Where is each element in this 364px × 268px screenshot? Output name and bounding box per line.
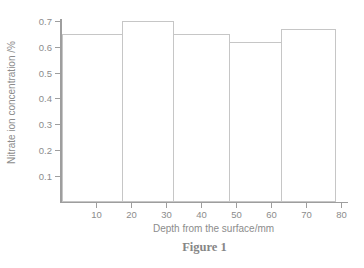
y-tick-label-0.6: 0.6 xyxy=(26,42,52,53)
y-tick-0.7 xyxy=(55,21,61,22)
figure-caption: Figure 1 xyxy=(144,240,265,255)
bar-17.5-32mm xyxy=(122,21,174,202)
y-tick-label-0.4: 0.4 xyxy=(26,93,52,104)
y-tick-0.2 xyxy=(55,150,61,151)
y-tick-label-0.1: 0.1 xyxy=(26,171,52,182)
x-tick-20 xyxy=(131,203,132,208)
x-tick-label-10: 10 xyxy=(85,209,109,220)
x-tick-label-80: 80 xyxy=(330,209,354,220)
y-tick-0.6 xyxy=(55,47,61,48)
figure-1-chart: 0.10.20.30.40.50.60.71020304050607080 Ni… xyxy=(0,0,364,268)
y-tick-label-0.2: 0.2 xyxy=(26,145,52,156)
bar-63-78.5mm xyxy=(281,29,336,202)
x-tick-80 xyxy=(341,203,342,208)
bar-32-48mm xyxy=(173,34,230,202)
x-axis-label: Depth from the surface/mm xyxy=(103,223,324,234)
x-tick-label-40: 40 xyxy=(190,209,214,220)
y-tick-label-0.7: 0.7 xyxy=(26,16,52,27)
x-tick-60 xyxy=(271,203,272,208)
x-tick-label-70: 70 xyxy=(295,209,319,220)
x-tick-label-60: 60 xyxy=(260,209,284,220)
y-tick-0.5 xyxy=(55,73,61,74)
y-tick-0.4 xyxy=(55,98,61,99)
x-axis-line xyxy=(60,202,348,204)
y-axis-label: Nitrate ion concentration /% xyxy=(6,12,17,194)
y-tick-0.3 xyxy=(55,124,61,125)
y-tick-label-0.3: 0.3 xyxy=(26,119,52,130)
bar-0-17.5mm xyxy=(62,34,123,202)
x-tick-30 xyxy=(166,203,167,208)
x-tick-10 xyxy=(96,203,97,208)
x-tick-label-20: 20 xyxy=(120,209,144,220)
y-tick-0.1 xyxy=(55,176,61,177)
x-tick-label-30: 30 xyxy=(155,209,179,220)
x-tick-40 xyxy=(201,203,202,208)
bar-48-63mm xyxy=(229,42,283,202)
x-tick-label-50: 50 xyxy=(225,209,249,220)
y-tick-label-0.5: 0.5 xyxy=(26,68,52,79)
x-tick-50 xyxy=(236,203,237,208)
x-tick-70 xyxy=(306,203,307,208)
